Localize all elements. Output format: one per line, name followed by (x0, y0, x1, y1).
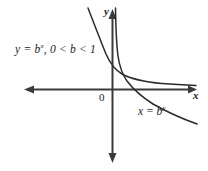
label-exponential-prefix: y = b (15, 43, 40, 55)
origin-label: 0 (99, 92, 105, 103)
y-axis (109, 9, 117, 163)
curve-exponential-y-equals-b-to-x (88, 8, 196, 85)
y-axis-label: y (104, 6, 109, 17)
label-exponential-condition: , 0 < b < 1 (44, 43, 96, 55)
arrow-down-icon (109, 153, 117, 163)
label-logarithmic-exponent: y (162, 104, 165, 112)
label-logarithmic-equation: x = by (138, 106, 166, 118)
x-axis-label: x (193, 90, 199, 101)
coordinate-plot (0, 0, 208, 171)
x-axis (24, 86, 197, 94)
exponential-log-figure: y = bx, 0 < b < 1 x = by y x 0 (0, 0, 208, 171)
label-logarithmic-prefix: x = b (138, 105, 162, 117)
label-exponential-equation: y = bx, 0 < b < 1 (15, 44, 96, 56)
arrow-left-icon (24, 86, 34, 94)
